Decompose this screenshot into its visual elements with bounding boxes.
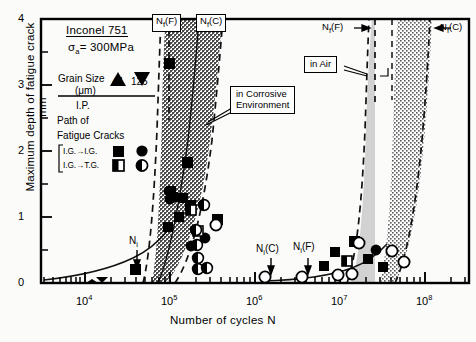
marker-circle-half bbox=[202, 263, 213, 274]
marker-circle-half bbox=[199, 200, 210, 211]
corrosive-lower-envelope bbox=[44, 230, 168, 280]
marker-triangle-up bbox=[86, 279, 98, 283]
nf-f-corrosive-label: Nf(F) bbox=[152, 14, 181, 32]
legend-ip-label: I.P. bbox=[76, 100, 90, 111]
nf-c-corrosive-label: Nf(C) bbox=[196, 14, 226, 32]
marker-square-filled bbox=[164, 58, 175, 69]
legend-col-125: 125 bbox=[131, 76, 148, 87]
legend-grain-size-unit: (μm) bbox=[75, 85, 96, 96]
ni-f-annotation: Ni(F) bbox=[293, 241, 315, 255]
legend-marker-circle-filled bbox=[136, 145, 147, 156]
marker-circle-half bbox=[191, 225, 202, 236]
marker-square-half bbox=[186, 205, 196, 215]
marker-square-filled bbox=[378, 262, 388, 272]
legend-col-44: 44 bbox=[112, 76, 123, 87]
marker-circle-filled bbox=[165, 194, 176, 205]
marker-square-filled bbox=[363, 254, 373, 264]
marker-square-filled bbox=[182, 157, 193, 168]
marker-circle-half bbox=[192, 240, 203, 251]
nf-f-air-label: Nf(F) bbox=[322, 21, 343, 35]
legend-row-igig: I.G.→I.G. bbox=[63, 146, 97, 156]
ni-c-annotation: Ni(C) bbox=[256, 243, 279, 257]
marker-circle-half bbox=[193, 253, 204, 264]
marker-square-filled bbox=[163, 222, 173, 232]
legend-path-line1: Path of bbox=[57, 115, 89, 126]
stress-amplitude: σa= 300MPa bbox=[68, 41, 134, 56]
marker-circle-open bbox=[398, 256, 409, 267]
legend-marker-square-filled bbox=[113, 146, 124, 157]
marker-square-filled bbox=[330, 247, 340, 257]
chart-title: Inconel 751 bbox=[66, 24, 128, 37]
marker-square-filled bbox=[130, 264, 141, 275]
marker-circle-open bbox=[296, 271, 307, 282]
marker-square-filled bbox=[174, 212, 184, 222]
marker-circle-open bbox=[210, 219, 221, 230]
marker-circle-open bbox=[259, 271, 270, 282]
air-band-c bbox=[380, 19, 432, 283]
y-major-ticks bbox=[41, 19, 52, 283]
nf-c-air-label: Nf(C) bbox=[440, 21, 462, 35]
marker-circle-open bbox=[386, 245, 397, 256]
legend-path-line2: Fatigue Cracks bbox=[57, 130, 124, 141]
marker-circle-open bbox=[346, 268, 357, 279]
in-air-callout: in Air bbox=[304, 56, 337, 73]
marker-circle-filled bbox=[371, 245, 382, 256]
legend-marker-circle-half bbox=[136, 160, 147, 171]
marker-circle-open bbox=[332, 269, 343, 280]
chart-root: Maximum depth of fatigue crack mm 4 3 2 … bbox=[0, 0, 476, 342]
legend-grain-size-title: Grain Size bbox=[58, 73, 105, 84]
marker-square-half bbox=[342, 256, 352, 266]
legend-marker-square-half bbox=[113, 160, 124, 171]
marker-circle-open bbox=[353, 237, 364, 248]
ni-annotation: Ni bbox=[129, 235, 138, 249]
marker-square-filled bbox=[319, 261, 329, 271]
in-corrosive-callout: in Corrosive Environment bbox=[230, 86, 295, 114]
legend-row-igtg: I.G.→T.G. bbox=[63, 160, 99, 170]
